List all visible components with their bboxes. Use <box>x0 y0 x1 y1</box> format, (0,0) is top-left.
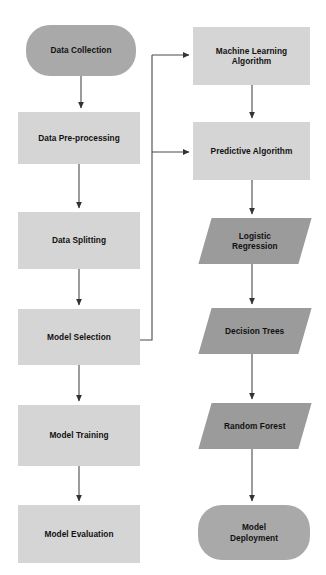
node-label: Logistic Regression <box>229 231 281 251</box>
node-data-collection[interactable]: Data Collection <box>26 25 136 76</box>
node-machine-learning-algorithm[interactable]: Machine Learning Algorithm <box>193 27 310 85</box>
node-label: Machine Learning Algorithm <box>213 46 290 66</box>
node-random-forest[interactable]: Random Forest <box>198 403 311 449</box>
node-model-deployment[interactable]: Model Deployment <box>198 505 310 560</box>
node-model-selection[interactable]: Model Selection <box>18 309 140 365</box>
node-data-splitting[interactable]: Data Splitting <box>18 212 140 269</box>
node-label: Random Forest <box>221 421 288 431</box>
node-decision-trees[interactable]: Decision Trees <box>198 308 311 354</box>
node-label: Model Deployment <box>227 522 281 542</box>
edge-model-selection-to-branch-trunk <box>140 55 152 340</box>
node-label: Predictive Algorithm <box>208 146 296 156</box>
node-label: Data Splitting <box>49 235 109 245</box>
node-data-pre-processing[interactable]: Data Pre-processing <box>18 112 140 164</box>
node-model-training[interactable]: Model Training <box>18 405 140 466</box>
node-label: Model Selection <box>44 332 114 342</box>
node-label: Data Collection <box>47 45 114 55</box>
node-label: Data Pre-processing <box>35 133 123 143</box>
node-label: Model Evaluation <box>41 529 116 539</box>
node-label: Model Training <box>46 430 111 440</box>
node-predictive-algorithm[interactable]: Predictive Algorithm <box>193 122 310 180</box>
node-label: Decision Trees <box>222 326 287 336</box>
flowchart-connectors <box>0 0 326 575</box>
node-model-evaluation[interactable]: Model Evaluation <box>18 505 140 563</box>
node-logistic-regression[interactable]: Logistic Regression <box>198 218 311 264</box>
flowchart-canvas: Data Collection Data Pre-processing Data… <box>0 0 326 575</box>
